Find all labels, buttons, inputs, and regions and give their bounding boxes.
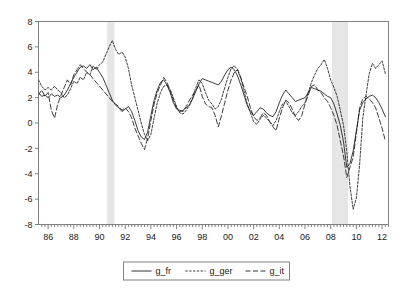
x-tick-label: 12	[377, 232, 387, 242]
x-tick-label: 90	[95, 232, 105, 242]
y-tick-label: 0	[27, 118, 32, 128]
x-tick-label: 02	[249, 232, 259, 242]
y-tick-label: -6	[24, 194, 32, 204]
y-tick-label: 6	[27, 42, 32, 52]
x-tick-label: 94	[146, 232, 156, 242]
x-tick-label: 92	[120, 232, 130, 242]
y-tick-label: -4	[24, 169, 32, 179]
x-tick-label: 86	[43, 232, 53, 242]
x-tick-label: 00	[223, 232, 233, 242]
x-tick-label: 96	[172, 232, 182, 242]
growth-rate-line-chart: 86420-2-4-6-8 86889092949698000204060810…	[0, 0, 413, 293]
legend-label-g_ger: g_ger	[210, 266, 233, 276]
x-tick-label: 88	[69, 232, 79, 242]
x-tick-label: 08	[326, 232, 336, 242]
x-tick-label: 04	[274, 232, 284, 242]
recession-band-1	[107, 22, 114, 225]
x-tick-label: 10	[351, 232, 361, 242]
x-tick-label: 98	[197, 232, 207, 242]
chart-background	[0, 0, 413, 293]
y-tick-label: 4	[27, 67, 32, 77]
chart-legend: g_frg_gerg_it	[124, 262, 290, 280]
y-tick-label: -8	[24, 220, 32, 230]
y-tick-label: -2	[24, 144, 32, 154]
legend-label-g_fr: g_fr	[156, 266, 172, 276]
x-tick-label: 06	[300, 232, 310, 242]
y-tick-label: 8	[27, 17, 32, 27]
legend-label-g_it: g_it	[270, 266, 285, 276]
y-tick-label: 2	[27, 93, 32, 103]
chart-figure: 86420-2-4-6-8 86889092949698000204060810…	[0, 0, 413, 293]
